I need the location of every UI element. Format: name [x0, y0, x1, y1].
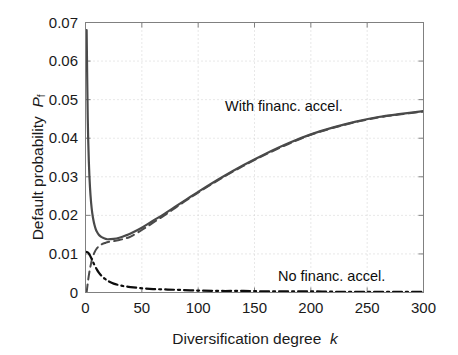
series-layer [87, 30, 424, 292]
grid-layer [86, 23, 424, 293]
x-axis-label-symbol: k [330, 330, 338, 347]
y-tick-label: 0.06 [18, 53, 78, 68]
x-tick-label: 150 [230, 300, 280, 315]
y-tick-label: 0.05 [18, 92, 78, 107]
y-tick-label: 0.01 [18, 246, 78, 261]
series-line-1 [87, 112, 424, 293]
figure-container: 00.010.020.030.040.050.060.07 0501001502… [0, 0, 458, 355]
x-tick-label: 250 [342, 300, 392, 315]
y-tick-label: 0.04 [18, 130, 78, 145]
x-tick-label: 0 [61, 300, 111, 315]
annotation-with-financ-accel: With financ. accel. [225, 98, 343, 114]
x-axis-label-text: Diversification degree [172, 330, 321, 347]
series-line-0 [87, 30, 424, 239]
y-axis-label-text: Default probability [29, 116, 46, 240]
y-tick-label: 0 [18, 285, 78, 300]
x-axis-label: Diversification degree k [85, 330, 425, 348]
y-tick-label: 0.03 [18, 169, 78, 184]
x-tick-label: 200 [286, 300, 336, 315]
y-axis-label: Default probability Pf [29, 67, 48, 267]
x-tick-label: 50 [117, 300, 167, 315]
x-tick-label: 100 [173, 300, 223, 315]
y-axis-label-symbol: P [29, 97, 46, 107]
x-tick-label: 300 [399, 300, 449, 315]
y-tick-label: 0.07 [18, 15, 78, 30]
annotation-no-financ-accel: No financ. accel. [278, 268, 385, 284]
y-axis-label-subscript: f [36, 94, 47, 97]
y-tick-label: 0.02 [18, 207, 78, 222]
